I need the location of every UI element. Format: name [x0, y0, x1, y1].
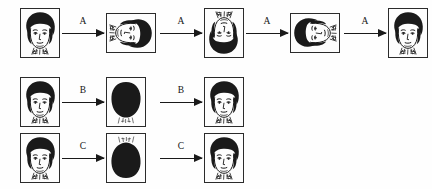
face-rotated-270-a3	[290, 13, 340, 53]
arrow-head-icon	[378, 29, 387, 37]
face-illustration	[20, 77, 60, 127]
arrow-b2: B	[160, 86, 202, 110]
face-illustration	[204, 8, 244, 58]
operation-label: A	[79, 16, 86, 27]
face-illustration	[106, 13, 156, 53]
face-silhouette-c1	[106, 133, 146, 183]
arrow-head-icon	[96, 154, 105, 162]
face-illustration	[20, 133, 60, 183]
face-upright-c0	[20, 133, 60, 183]
arrow-a3: A	[246, 17, 288, 41]
arrow-a4: A	[344, 17, 386, 41]
face-upright-a0	[20, 8, 60, 58]
arrow-b1: B	[62, 86, 104, 110]
operation-label: C	[80, 141, 87, 152]
face-illustration	[20, 8, 60, 58]
operation-label: A	[177, 16, 184, 27]
operation-label: C	[178, 141, 185, 152]
face-upright-b0	[20, 77, 60, 127]
arrow-head-icon	[194, 98, 203, 106]
arrow-head-icon	[96, 29, 105, 37]
face-illustration	[290, 13, 340, 53]
arrow-head-icon	[96, 98, 105, 106]
face-rotated-180-a2	[204, 8, 244, 58]
face-rotated-90-a1	[106, 13, 156, 53]
arrow-c2: C	[160, 142, 202, 166]
transformation-figure: A	[0, 0, 432, 189]
arrow-head-icon	[194, 154, 203, 162]
arrow-a2: A	[160, 17, 202, 41]
operation-label: B	[80, 85, 87, 96]
face-illustration	[106, 77, 146, 127]
face-illustration	[204, 133, 244, 183]
face-upright-a4	[388, 8, 428, 58]
face-illustration	[204, 77, 244, 127]
face-illustration	[106, 133, 146, 183]
face-illustration	[388, 8, 428, 58]
face-upright-b2	[204, 77, 244, 127]
operation-label: A	[263, 16, 270, 27]
operation-label: B	[178, 85, 185, 96]
face-upright-c2	[204, 133, 244, 183]
arrow-a1: A	[62, 17, 104, 41]
arrow-head-icon	[194, 29, 203, 37]
arrow-c1: C	[62, 142, 104, 166]
operation-label: A	[361, 16, 368, 27]
arrow-head-icon	[280, 29, 289, 37]
face-silhouette-b1	[106, 77, 146, 127]
